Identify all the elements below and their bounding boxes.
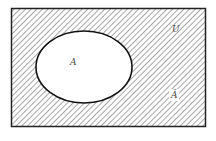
complement-label: Ā [170,89,178,100]
venn-diagram: U A Ā [0,0,216,141]
set-a-ellipse [36,31,132,103]
universe-label: U [172,24,180,34]
set-a-label: A [69,57,77,67]
